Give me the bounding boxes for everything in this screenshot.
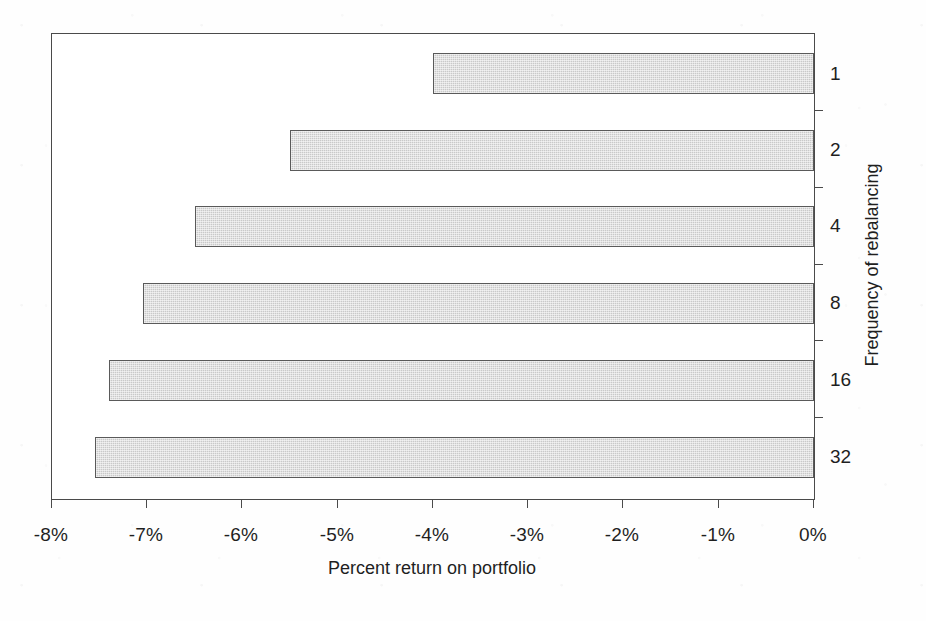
y-axis-tick — [814, 264, 823, 265]
bar-category-32 — [95, 437, 814, 478]
y-axis-tick — [814, 110, 823, 111]
x-axis-tick — [51, 499, 52, 508]
bar-category-1 — [433, 53, 814, 94]
bar-category-8 — [143, 283, 815, 324]
y-axis-tick — [814, 417, 823, 418]
chart-figure: -8% -7% -6% -5% -4% -3% -2% -1% 0% 1 2 4… — [0, 0, 926, 621]
x-axis-tick-label: -5% — [297, 524, 377, 546]
x-axis-tick — [622, 499, 623, 508]
x-axis-tick-label: -1% — [678, 524, 758, 546]
bar-category-2 — [290, 130, 814, 171]
y-axis-tick — [814, 340, 823, 341]
y-axis-tick-label: 2 — [830, 139, 876, 161]
y-axis-tick-label: 32 — [830, 446, 876, 468]
x-axis-tick — [527, 499, 528, 508]
x-axis-tick — [241, 499, 242, 508]
x-axis-tick — [813, 499, 814, 508]
x-axis-tick — [146, 499, 147, 508]
y-axis-title: Frequency of rebalancing — [862, 163, 883, 366]
x-axis-tick — [432, 499, 433, 508]
y-axis-tick — [814, 187, 823, 188]
bar-category-4 — [195, 206, 814, 247]
bar-category-16 — [109, 360, 814, 401]
x-axis-tick-label: -8% — [11, 524, 91, 546]
x-axis-tick — [337, 499, 338, 508]
x-axis-tick — [718, 499, 719, 508]
x-axis-title: Percent return on portfolio — [51, 558, 813, 579]
x-axis-tick-label: 0% — [773, 524, 853, 546]
x-axis-tick-label: -7% — [106, 524, 186, 546]
x-axis-tick-label: -2% — [582, 524, 662, 546]
y-axis-tick-label: 16 — [830, 369, 876, 391]
plot-area — [51, 33, 815, 500]
x-axis-tick-label: -4% — [392, 524, 472, 546]
y-axis-tick-label: 1 — [830, 63, 876, 85]
x-axis-tick-label: -6% — [201, 524, 281, 546]
x-axis-tick-label: -3% — [487, 524, 567, 546]
